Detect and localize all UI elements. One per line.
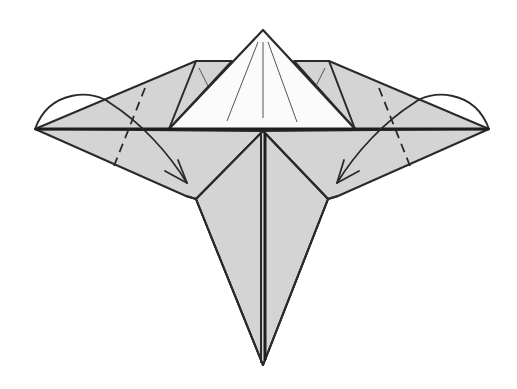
origami-diagram-svg: [0, 0, 517, 389]
origami-diagram: [0, 0, 517, 389]
lower-point-body: [35, 129, 489, 365]
